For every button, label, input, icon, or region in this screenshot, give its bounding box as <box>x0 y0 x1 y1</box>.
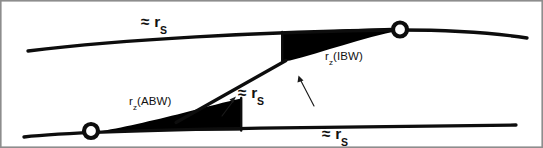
label-approx-rs-top-symbol: ≈ r <box>141 13 160 30</box>
label-approx-rs-center-symbol: ≈ r <box>238 84 257 101</box>
diagram-canvas: ≈ rS ≈ rS ≈ rS rz(IBW) rz(ABW) <box>0 0 543 148</box>
label-rz-ibw-suffix: (IBW) <box>333 50 363 62</box>
label-approx-rs-top: ≈ rS <box>141 14 168 33</box>
label-rz-ibw-subscript: z <box>329 58 333 67</box>
label-rz-abw-subscript: z <box>133 103 137 112</box>
label-rz-abw: rz(ABW) <box>129 96 171 110</box>
label-rz-abw-suffix: (ABW) <box>137 95 171 107</box>
cutoff-node-lower-left <box>84 124 98 138</box>
label-approx-rs-center-subscript: S <box>257 95 264 107</box>
label-rz-ibw: rz(IBW) <box>325 51 363 65</box>
cutoff-node-upper-right <box>393 23 407 37</box>
label-approx-rs-bottom: ≈ rS <box>322 126 349 145</box>
label-approx-rs-bottom-subscript: S <box>341 136 348 148</box>
label-approx-rs-center: ≈ rS <box>238 85 265 104</box>
label-approx-rs-top-subscript: S <box>160 24 167 36</box>
diagram-vector-layer <box>0 0 543 148</box>
label-approx-rs-bottom-symbol: ≈ r <box>322 125 341 142</box>
